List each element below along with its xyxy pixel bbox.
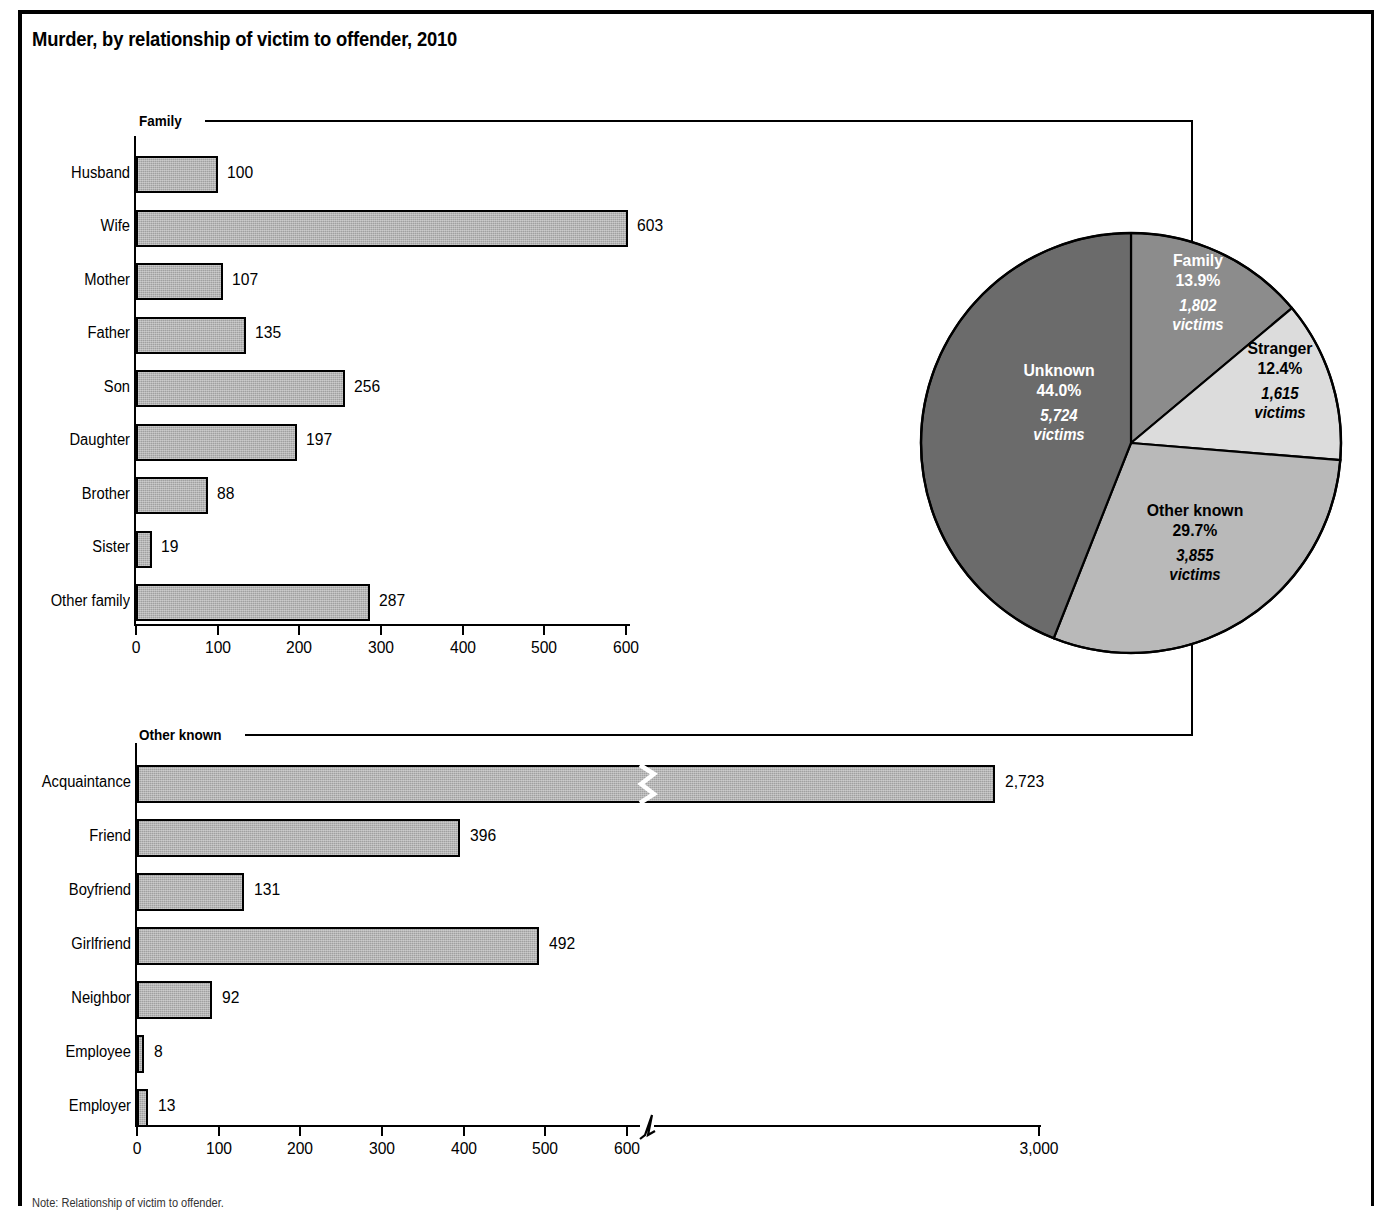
pie-label-unknown-victims: 5,724 — [990, 407, 1128, 426]
other-known-bar-value: 131 — [254, 880, 280, 900]
other-known-axis-tick — [381, 1127, 383, 1136]
other-known-x-axis-left — [135, 1125, 640, 1127]
other-known-x-axis-right — [654, 1125, 1041, 1127]
pie-label-stranger-victims: 1,615 — [1220, 385, 1339, 404]
pie-label-unknown-name: Unknown — [990, 361, 1128, 381]
pie-label-family-suffix: victims — [1133, 316, 1263, 335]
other-known-row-label: Girlfriend — [2, 935, 131, 953]
pie-label-stranger-name: Stranger — [1220, 339, 1339, 359]
other-known-tick-label: 400 — [451, 1139, 477, 1159]
pie-label-other-known-suffix: victims — [1115, 566, 1275, 585]
other-known-axis-tick — [626, 1127, 628, 1136]
pie-label-unknown: Unknown 44.0% 5,724 victims — [985, 361, 1133, 445]
other-known-bar — [137, 927, 539, 965]
other-known-bar — [137, 1035, 144, 1073]
other-known-tick-label: 3,000 — [1019, 1139, 1058, 1159]
other-known-bar — [137, 873, 244, 911]
other-known-bar — [137, 819, 460, 857]
other-known-bar-value: 92 — [222, 988, 239, 1008]
pie-label-unknown-suffix: victims — [990, 426, 1128, 445]
pie-label-other-known: Other known 29.7% 3,855 victims — [1109, 501, 1281, 585]
other-known-row-label: Friend — [2, 827, 131, 845]
other-known-row-label: Employee — [2, 1043, 131, 1061]
pie-label-family-percent: 13.9% — [1133, 271, 1263, 291]
other-known-axis-tick — [544, 1127, 546, 1136]
pie-label-family: Family 13.9% 1,802 victims — [1128, 251, 1268, 335]
figure-footnote: Note: Relationship of victim to offender… — [32, 1196, 224, 1210]
other-known-bar-value: 2,723 — [1005, 772, 1044, 792]
other-known-axis-tick — [1038, 1127, 1040, 1136]
other-known-tick-label: 0 — [133, 1139, 142, 1159]
pie-label-stranger-suffix: victims — [1220, 404, 1339, 423]
other-known-row-label: Boyfriend — [2, 881, 131, 899]
other-known-tick-label: 500 — [532, 1139, 558, 1159]
other-known-bar — [137, 981, 212, 1019]
other-known-tick-label: 100 — [206, 1139, 232, 1159]
pie-label-other-known-percent: 29.7% — [1115, 521, 1275, 541]
other-known-axis-tick — [218, 1127, 220, 1136]
other-known-bar — [137, 765, 995, 803]
other-known-axis-tick — [463, 1127, 465, 1136]
other-known-bar-value: 396 — [470, 826, 496, 846]
chart-pie: Unknown 44.0% 5,724 victims Family 13.9%… — [919, 231, 1343, 655]
other-known-tick-label: 600 — [614, 1139, 640, 1159]
other-known-row-label: Employer — [2, 1097, 131, 1115]
pie-label-stranger-percent: 12.4% — [1220, 359, 1339, 379]
pie-label-other-known-name: Other known — [1115, 501, 1275, 521]
pie-label-other-known-victims: 3,855 — [1115, 547, 1275, 566]
other-known-bar — [137, 1089, 148, 1127]
pie-label-family-victims: 1,802 — [1133, 297, 1263, 316]
other-known-row-label: Neighbor — [2, 989, 131, 1007]
other-known-tick-label: 200 — [287, 1139, 313, 1159]
other-known-tick-label: 300 — [369, 1139, 395, 1159]
axis-break-icon — [636, 1113, 662, 1141]
pie-label-stranger: Stranger 12.4% 1,615 victims — [1216, 339, 1344, 423]
pie-label-unknown-percent: 44.0% — [990, 381, 1128, 401]
other-known-bar-value: 13 — [158, 1096, 175, 1116]
other-known-bar-value: 8 — [154, 1042, 163, 1062]
other-known-row-label: Acquaintance — [2, 773, 131, 791]
other-known-bar-value: 492 — [549, 934, 575, 954]
other-known-axis-tick — [136, 1127, 138, 1136]
pie-label-family-name: Family — [1133, 251, 1263, 271]
other-known-axis-tick — [299, 1127, 301, 1136]
